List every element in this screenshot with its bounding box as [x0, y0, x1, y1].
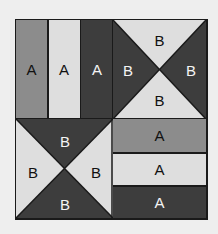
strip-dark: A — [81, 20, 113, 119]
block-bottom-left-hourglass: B B B B — [16, 119, 113, 218]
block-bottom-right-strips: A A A — [113, 119, 206, 218]
strip-dark: A — [113, 187, 206, 219]
triangle-label-left: B — [28, 164, 38, 181]
triangle-label-right: B — [91, 164, 101, 181]
strip-light: A — [49, 20, 80, 119]
triangle-label-left: B — [123, 62, 133, 79]
block-top-left-strips: A A A — [16, 20, 113, 119]
strip-label: A — [59, 61, 69, 78]
triangle-label-top: B — [60, 133, 70, 150]
strip-medium: A — [113, 119, 206, 152]
strip-medium: A — [16, 20, 47, 119]
strip-label: A — [154, 161, 164, 178]
triangle-label-top: B — [154, 32, 164, 49]
strip-light: A — [113, 154, 206, 186]
triangle-label-bottom: B — [154, 92, 164, 109]
triangle-label-right: B — [186, 62, 196, 79]
quilt-diagram: A A A B B B B — [15, 19, 208, 220]
strip-label: A — [154, 127, 164, 144]
triangle-label-bottom: B — [60, 196, 70, 213]
strip-label: A — [26, 61, 36, 78]
block-top-right-hourglass: B B B B — [113, 20, 206, 119]
strip-label: A — [154, 194, 164, 211]
strip-label: A — [92, 61, 102, 78]
